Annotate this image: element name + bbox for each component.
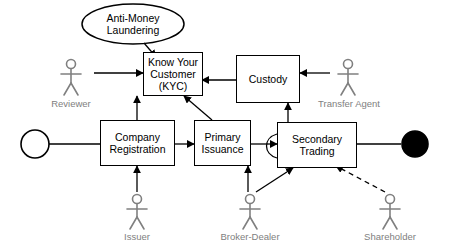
actor-issuer-label: Issuer [107,231,167,242]
node-custody-label: Custody [247,73,290,85]
aml-ellipse [82,4,184,44]
actor-broker-dealer-label: Broker-Dealer [212,231,288,242]
diagram-canvas: Anti-Money Laundering Know Your Customer… [0,0,451,242]
edge-secondary-trading-self-loop [267,134,278,158]
actor-transfer-agent-figure [338,60,358,96]
actor-reviewer-label: Reviewer [41,98,101,109]
node-secondary-trading-label: Secondary Trading [278,133,356,157]
node-company-registration-label: Company Registration [101,131,174,155]
edge-broker-dealer-to-secondary-trading [256,168,293,192]
edge-primary-issuance-to-kyc [184,96,212,120]
actor-transfer-agent-label: Transfer Agent [311,98,387,109]
node-primary-issuance-label: Primary Issuance [195,131,250,155]
end-node [402,131,428,157]
edge-shareholder-to-secondary-trading [336,166,385,192]
start-node [21,130,49,158]
node-kyc[interactable]: Know Your Customer (KYC) [143,52,203,96]
node-secondary-trading[interactable]: Secondary Trading [277,122,357,168]
actor-shareholder-figure [380,195,400,230]
node-kyc-label: Know Your Customer (KYC) [144,56,202,92]
actor-reviewer-figure [61,60,81,96]
node-custody[interactable]: Custody [236,55,300,103]
actor-shareholder-label: Shareholder [355,231,425,242]
node-primary-issuance[interactable]: Primary Issuance [194,120,251,166]
node-company-registration[interactable]: Company Registration [100,120,175,166]
actor-broker-dealer-figure [240,195,260,230]
actor-issuer-figure [127,195,147,230]
